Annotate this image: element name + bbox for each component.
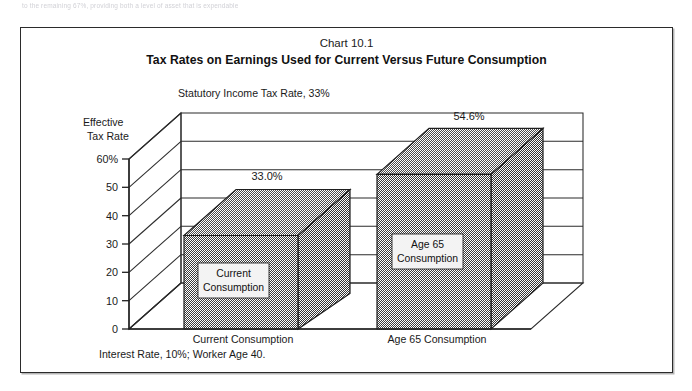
bar-inner-label-current-line1: Current [216, 268, 251, 279]
x-tick-label-current-consumption: Current Consumption [193, 333, 294, 345]
page-text-scrap: to the remaining 67%, providing both a l… [22, 0, 442, 11]
bar-age-65-consumption[interactable] [377, 128, 543, 329]
chart-footnote: Interest Rate, 10%; Worker Age 40. [99, 348, 265, 360]
page-root: to the remaining 67%, providing both a l… [0, 0, 692, 391]
bar-inner-label-current: Current Consumption [198, 263, 269, 298]
bar-value-label-current: 33.0% [251, 170, 282, 182]
y-axis-title: Effective Tax Rate [83, 116, 129, 142]
bar-value-label-age65: 54.6% [453, 110, 484, 122]
figure-frame: Chart 10.1 Tax Rates on Earnings Used fo… [20, 27, 673, 373]
bar-inner-label-current-line2: Consumption [203, 282, 264, 293]
x-axis: Current Consumption Age 65 Consumption [129, 329, 531, 345]
y-tick-label-40: 40 [106, 210, 118, 222]
y-axis-title-line2: Tax Rate [87, 130, 129, 142]
y-tick-label-20: 20 [106, 266, 118, 278]
bar-inner-label-age65-line1: Age 65 [411, 239, 444, 250]
y-axis-title-line1: Effective [83, 116, 124, 128]
bar-current-consumption[interactable] [184, 190, 350, 330]
y-tick-label-60: 60% [96, 153, 118, 165]
y-tick-label-50: 50 [106, 181, 118, 193]
bar-inner-label-age65-line2: Consumption [397, 253, 458, 264]
y-tick-label-30: 30 [106, 238, 118, 250]
bar-inner-label-age65: Age 65 Consumption [392, 234, 463, 269]
y-tick-label-10: 10 [106, 295, 118, 307]
y-tick-label-0: 0 [112, 323, 118, 335]
chart-plot: 33.0% Current Consumption 54.6% [21, 28, 674, 374]
y-axis: 0 10 20 30 40 50 60% [96, 153, 129, 335]
x-tick-label-age-65-consumption: Age 65 Consumption [388, 333, 487, 345]
